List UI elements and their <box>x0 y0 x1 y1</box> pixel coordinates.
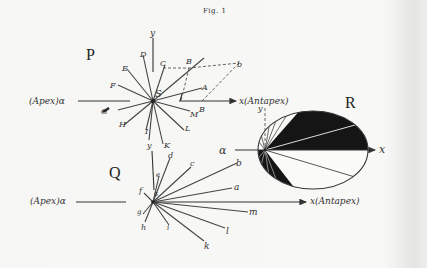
p-dashed-top <box>163 63 239 68</box>
p-label-g: G <box>101 107 108 116</box>
p-label-k: K <box>163 141 171 150</box>
p-dashed-left <box>181 68 189 101</box>
p-dashed-diag <box>202 63 239 101</box>
q-label-l: l <box>226 226 229 236</box>
panel-p-label: P <box>86 46 95 63</box>
panel-p: P y (Apex)α x(Antapex) <box>29 28 289 150</box>
p-center-point <box>151 99 155 103</box>
p-label-f: F <box>109 81 116 90</box>
diagram-svg: Fig. 1 P y (Apex)α x(Antapex) <box>0 0 427 268</box>
p-antapex-label: x(Antapex) <box>239 96 289 106</box>
q-apex-label: (Apex)α <box>30 196 66 206</box>
p-label-d: D <box>139 50 147 59</box>
p-label-h: H <box>118 120 127 129</box>
p-label-a: A <box>201 83 208 92</box>
q-label-e: e <box>156 171 160 179</box>
p-label-c: C <box>160 59 166 68</box>
p-label-e: E <box>121 64 128 73</box>
r-alpha-label: α <box>219 144 227 157</box>
q-label-m: m <box>249 207 258 217</box>
p-label-m: M <box>189 110 199 119</box>
q-label-i: i <box>167 224 169 232</box>
panel-q-label: Q <box>109 164 121 181</box>
r-y-label: y <box>257 104 263 113</box>
r-focus-point <box>263 148 266 151</box>
panel-r: R y α x <box>219 94 386 195</box>
q-label-h: h <box>141 223 146 232</box>
p-rays <box>118 55 204 144</box>
p-label-b-upper: B <box>185 57 192 66</box>
p-label-i: I <box>144 127 149 136</box>
p-center-label: S <box>155 88 162 99</box>
q-label-g: g <box>137 208 142 216</box>
q-label-c: c <box>190 159 195 168</box>
figure-title: Fig. 1 <box>203 7 226 15</box>
panel-r-label: R <box>345 94 356 111</box>
r-x-label: x <box>379 143 386 156</box>
q-label-k: k <box>204 241 209 251</box>
q-center-point <box>151 200 155 204</box>
p-label-b-lower: b <box>237 60 242 69</box>
q-y-label: y <box>146 141 152 150</box>
q-y-axis <box>152 151 154 190</box>
p-label-l: L <box>184 124 190 133</box>
p-label-b: B <box>198 105 205 114</box>
q-label-a: a <box>234 182 239 192</box>
q-antapex-label: x(Antapex) <box>310 196 360 206</box>
q-label-d: d <box>168 151 173 160</box>
p-y-label: y <box>149 28 156 38</box>
figure-page: Fig. 1 P y (Apex)α x(Antapex) <box>0 0 427 268</box>
p-apex-label: (Apex)α <box>29 96 65 106</box>
q-label-b: b <box>236 158 242 168</box>
q-center-label: s <box>154 189 158 198</box>
q-label-f: f <box>138 186 144 195</box>
